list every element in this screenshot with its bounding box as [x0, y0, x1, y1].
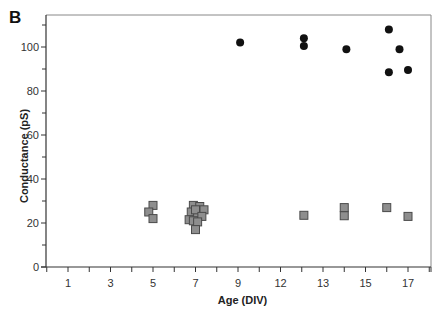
y-axis-label: Conductance (pS) [18, 96, 30, 216]
circle-marker [300, 34, 308, 42]
data-points [145, 25, 412, 233]
square-marker [404, 212, 412, 220]
square-marker [192, 226, 200, 234]
x-tick-label: 13 [317, 277, 329, 289]
x-tick-label: 7 [192, 277, 198, 289]
square-marker [194, 218, 202, 226]
y-tick-label: 20 [27, 217, 39, 229]
circle-marker [396, 45, 404, 53]
circle-marker [236, 39, 244, 47]
circle-marker [342, 45, 350, 53]
square-marker [340, 212, 348, 220]
x-axis: 1357912131517 [41, 267, 431, 289]
x-tick-label: 5 [150, 277, 156, 289]
square-marker [300, 211, 308, 219]
scatter-chart: 020406080100 1357912131517 [0, 0, 439, 318]
circle-marker [385, 68, 393, 76]
square-marker [383, 204, 391, 212]
x-tick-label: 3 [107, 277, 113, 289]
x-tick-label: 12 [274, 277, 286, 289]
x-tick-label: 9 [235, 277, 241, 289]
circle-marker [300, 42, 308, 50]
circle-marker [385, 25, 393, 33]
square-marker [340, 204, 348, 212]
x-axis-label: Age (DIV) [0, 294, 439, 306]
panel-label: B [9, 8, 21, 28]
x-tick-label: 1 [65, 277, 71, 289]
x-tick-label: 17 [402, 277, 414, 289]
y-tick-label: 100 [21, 41, 39, 53]
x-tick-label: 15 [359, 277, 371, 289]
y-tick-label: 0 [33, 261, 39, 273]
circle-marker [404, 66, 412, 74]
square-marker [149, 215, 157, 223]
plot-frame [46, 15, 431, 267]
